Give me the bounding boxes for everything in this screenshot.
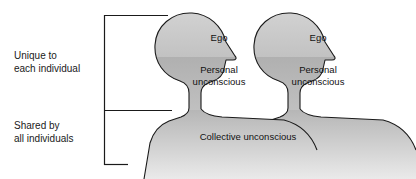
person-right-ego-label: Ego (292, 32, 344, 44)
bracket-label-unique: Unique to each individual (14, 50, 80, 75)
bracket-label-shared: Shared by all individuals (14, 120, 73, 145)
person-left-personal-unconscious-label: Personal unconscious (183, 64, 255, 87)
collective-unconscious-label: Collective unconscious (178, 131, 318, 143)
person-left-ego-label: Ego (193, 32, 245, 44)
jung-psyche-diagram: Unique to each individual Shared by all … (0, 0, 416, 179)
person-right-personal-unconscious-label: Personal unconscious (282, 64, 354, 87)
figures-illustration (0, 0, 416, 179)
